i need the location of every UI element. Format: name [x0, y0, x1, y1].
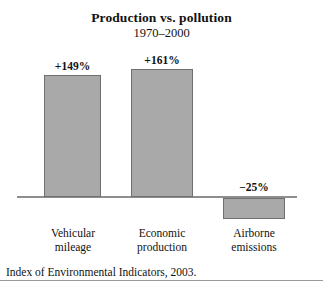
value-label-vehicular-mileage: +149%: [44, 61, 101, 73]
category-label-line-1: Vehicular: [51, 227, 95, 239]
category-label-line-1: Economic: [139, 227, 186, 239]
bar-economic-production: [131, 69, 193, 197]
source-note: Index of Environmental Indicators, 2003.: [6, 266, 196, 279]
category-label-vehicular-mileage: Vehicular mileage: [34, 226, 112, 254]
category-label-economic-production: Economic production: [123, 226, 201, 254]
chart-figure: Production vs. pollution 1970–2000 +149%…: [0, 0, 323, 284]
bottom-divider: [0, 280, 323, 281]
category-label-airborne-emissions: Airborne emissions: [215, 226, 293, 254]
plot-area: +149% +161% −25% Vehicular mileage Econo…: [0, 0, 323, 284]
value-label-airborne-emissions: −25%: [223, 182, 285, 194]
category-label-line-2: emissions: [215, 240, 293, 254]
bar-vehicular-mileage: [44, 75, 101, 197]
bar-airborne-emissions: [223, 198, 285, 219]
category-label-line-2: mileage: [34, 240, 112, 254]
value-label-economic-production: +161%: [131, 55, 193, 67]
category-label-line-2: production: [123, 240, 201, 254]
category-label-line-1: Airborne: [233, 227, 275, 239]
